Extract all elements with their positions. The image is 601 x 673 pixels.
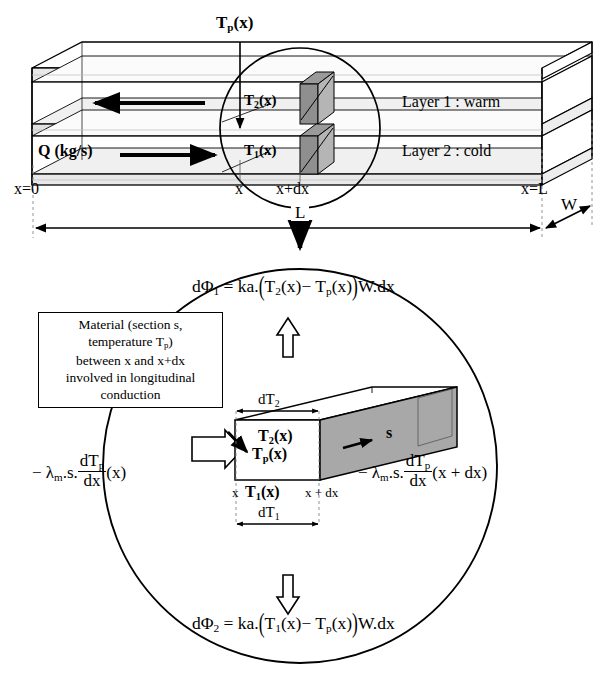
material-line-3: between x and x+dx	[43, 352, 218, 369]
label-layer-1: Layer 1 : warm	[402, 94, 500, 110]
figure-root: Tp(x) T2(x) T1(x) Q (kg/s) Layer 1 : war…	[0, 0, 601, 673]
equation-conduction-left: − λm.s.dTpdx(x)	[32, 452, 126, 490]
label-tp-top: Tp(x)	[216, 14, 253, 33]
label-x-plus-dx: x+dx	[276, 181, 309, 197]
label-x: x	[235, 181, 243, 197]
label-x-zero: x=0	[14, 181, 39, 197]
equation-conduction-right: − λm.s.dTpdx(x + dx)	[358, 452, 487, 490]
label-dT2: dT2	[258, 392, 280, 408]
label-mass-flow: Q (kg/s)	[38, 143, 93, 159]
label-section-s: s	[386, 425, 392, 441]
material-line-1: Material (section s,	[43, 316, 218, 333]
flux-arrow-down	[277, 575, 299, 614]
equation-flux-1: dΦ1 = ka.(T2(x)− Tp(x))W.dx	[192, 278, 395, 298]
label-x-left-block: x	[232, 486, 239, 499]
material-line-5: conduction	[43, 386, 218, 403]
label-t1-block: T1(x)	[245, 484, 280, 502]
label-t2-block: T2(x)	[258, 428, 293, 446]
label-layer-2: Layer 2 : cold	[402, 143, 491, 159]
label-tp-block: Tp(x)	[252, 446, 287, 464]
label-length-L: L	[291, 204, 309, 221]
flux-arrow-up	[277, 318, 299, 357]
label-t2-top: T2(x)	[244, 93, 276, 109]
equation-flux-2: dΦ2 = ka.(T1(x)− Tp(x))W.dx	[192, 615, 395, 635]
material-description-box: Material (section s, temperature Tp) bet…	[38, 312, 223, 408]
material-line-2: temperature Tp)	[43, 333, 218, 352]
material-line-4: involved in longitudinal	[43, 369, 218, 386]
label-t1-top: T1(x)	[244, 143, 276, 159]
label-x-equals-L: x=L	[521, 181, 548, 197]
label-x-right-block: x + dx	[305, 486, 338, 499]
label-dT1: dT1	[258, 505, 280, 521]
label-width-W: W	[561, 196, 577, 213]
